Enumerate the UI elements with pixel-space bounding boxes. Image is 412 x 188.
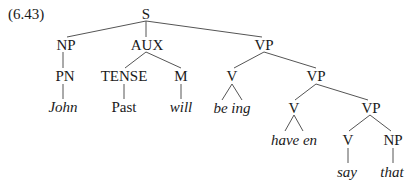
- node-m: M: [174, 69, 187, 84]
- node-v-3: V: [343, 133, 354, 148]
- leaf-john: John: [48, 100, 77, 115]
- node-vp-1: VP: [254, 38, 273, 53]
- node-tense: TENSE: [101, 69, 148, 84]
- tree-edges: [0, 0, 412, 188]
- node-pn: PN: [55, 69, 74, 84]
- node-vp-3: VP: [361, 101, 380, 116]
- leaf-be-ing: be ing: [213, 101, 250, 116]
- node-vp-2: VP: [306, 69, 325, 84]
- node-np-object: NP: [383, 133, 402, 148]
- leaf-that: that: [380, 165, 403, 180]
- node-v-2: V: [289, 101, 300, 116]
- leaf-say: say: [337, 165, 357, 180]
- node-s: S: [142, 7, 150, 22]
- leaf-past: Past: [111, 100, 136, 115]
- node-np-subject: NP: [56, 38, 75, 53]
- leaf-will: will: [170, 100, 193, 115]
- node-v-1: V: [227, 69, 238, 84]
- leaf-have-en: have en: [271, 133, 317, 148]
- node-aux: AUX: [131, 38, 164, 53]
